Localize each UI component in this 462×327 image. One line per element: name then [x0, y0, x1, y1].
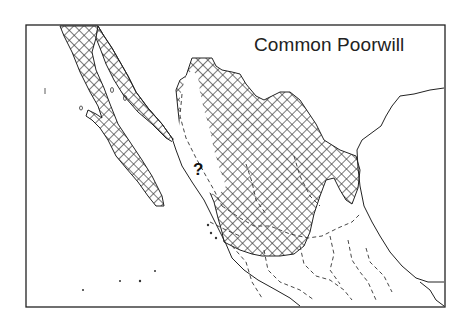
mainland-range-area	[96, 26, 360, 256]
gulf-of-mexico-coastline	[357, 88, 444, 282]
range-map: Common Poorwill ?	[0, 0, 462, 327]
islands	[45, 88, 127, 111]
island-dots	[82, 224, 217, 291]
map-title: Common Poorwill	[254, 34, 404, 56]
peninsula-tip-coast	[420, 282, 444, 306]
uncertain-range-marker: ?	[193, 160, 203, 180]
